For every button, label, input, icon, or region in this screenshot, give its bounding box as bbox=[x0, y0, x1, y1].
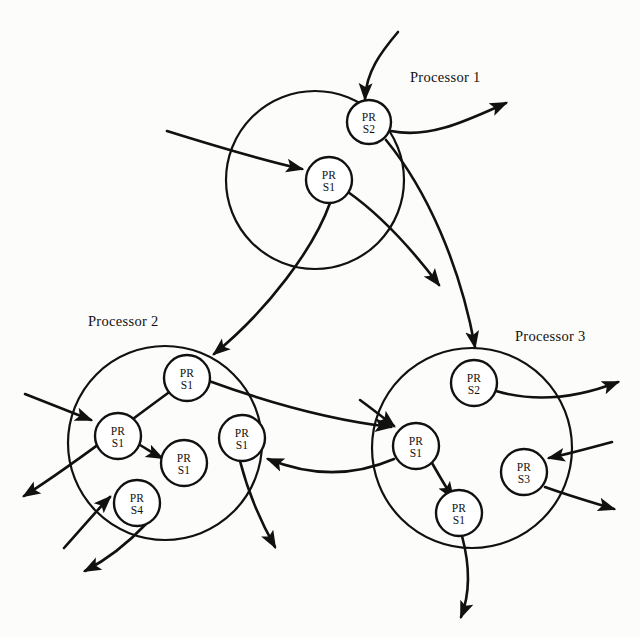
node-label-line1-p2-prs1-right: PR bbox=[235, 427, 250, 439]
node-label-line2-p3-prs1-bottom: S1 bbox=[453, 514, 466, 526]
edge-in-to-p2-prs4 bbox=[64, 497, 110, 548]
process-node-p3-prs1-bottom[interactable]: PRS1 bbox=[436, 490, 482, 536]
edge-p3-prs3-out-right bbox=[545, 487, 614, 509]
node-label-line1-p2-prs4: PR bbox=[130, 492, 145, 504]
process-node-p3-prs1-left[interactable]: PRS1 bbox=[393, 423, 439, 469]
edge-p1-prs1-out-down bbox=[348, 192, 439, 285]
node-label-line2-p2-prs1-top: S1 bbox=[181, 379, 194, 391]
edge-p1-prs2-to-p3-prs2 bbox=[386, 140, 475, 347]
node-label-line2-p2-prs4: S4 bbox=[131, 504, 144, 516]
processor-network-diagram: PRS2PRS1PRS1PRS1PRS1PRS1PRS4PRS2PRS1PRS3… bbox=[0, 0, 640, 638]
edge-in-to-p2-prs1-left bbox=[25, 394, 91, 420]
process-node-p2-prs4[interactable]: PRS4 bbox=[114, 480, 160, 526]
node-label-line1-p3-prs3: PR bbox=[517, 461, 532, 473]
diagram-canvas: PRS2PRS1PRS1PRS1PRS1PRS1PRS4PRS2PRS1PRS3… bbox=[0, 0, 640, 638]
process-node-p2-prs1-center[interactable]: PRS1 bbox=[161, 440, 207, 486]
node-label-line2-p3-prs3: S3 bbox=[518, 473, 531, 485]
node-label-line2-p3-prs1-left: S1 bbox=[410, 447, 423, 459]
node-label-line1-p2-prs1-left: PR bbox=[111, 425, 126, 437]
node-label-line2-p1-prs2: S2 bbox=[363, 123, 376, 135]
process-node-p2-prs1-top[interactable]: PRS1 bbox=[164, 355, 210, 401]
node-label-line1-p2-prs1-top: PR bbox=[180, 367, 195, 379]
process-node-p2-prs1-left[interactable]: PRS1 bbox=[95, 413, 141, 459]
process-node-p1-prs2[interactable]: PRS2 bbox=[347, 100, 391, 144]
edge-in-to-p3-prs1-left bbox=[360, 400, 394, 426]
process-node-p3-prs2[interactable]: PRS2 bbox=[451, 360, 497, 406]
processor-label-processor-3: Processor 3 bbox=[515, 328, 586, 344]
node-label-line1-p3-prs1-left: PR bbox=[409, 435, 424, 447]
edge-p1-prs1-to-p2-prs1 bbox=[214, 203, 330, 354]
process-node-p2-prs1-right[interactable]: PRS1 bbox=[219, 415, 265, 461]
processor-label-processor-2: Processor 2 bbox=[88, 313, 159, 329]
processor-labels-layer: Processor 1Processor 2Processor 3 bbox=[88, 69, 586, 344]
edge-p2-prs1-left-to-center bbox=[140, 445, 162, 458]
process-node-p3-prs3[interactable]: PRS3 bbox=[501, 449, 547, 495]
edge-in-to-p3-prs3 bbox=[549, 442, 612, 458]
node-label-line2-p1-prs1: S1 bbox=[323, 181, 336, 193]
processor-label-processor-1: Processor 1 bbox=[410, 69, 481, 85]
node-label-line1-p1-prs1: PR bbox=[322, 169, 337, 181]
edge-in-to-p1-prs2 bbox=[365, 32, 398, 99]
node-label-line2-p2-prs1-center: S1 bbox=[178, 464, 191, 476]
process-node-p1-prs1[interactable]: PRS1 bbox=[306, 157, 352, 203]
node-label-line1-p1-prs2: PR bbox=[362, 111, 377, 123]
edge-in-to-p1-prs1 bbox=[167, 131, 302, 169]
node-label-line2-p2-prs1-left: S1 bbox=[112, 437, 125, 449]
edge-p1-prs2-out-right bbox=[391, 103, 506, 133]
node-label-line1-p2-prs1-center: PR bbox=[177, 452, 192, 464]
node-label-line1-p3-prs2: PR bbox=[467, 372, 482, 384]
node-label-line2-p3-prs2: S2 bbox=[468, 384, 481, 396]
node-label-line2-p2-prs1-right: S1 bbox=[236, 439, 249, 451]
edge-p2-prs4-out-downleft bbox=[85, 524, 146, 571]
node-label-line1-p3-prs1-bottom: PR bbox=[452, 502, 467, 514]
